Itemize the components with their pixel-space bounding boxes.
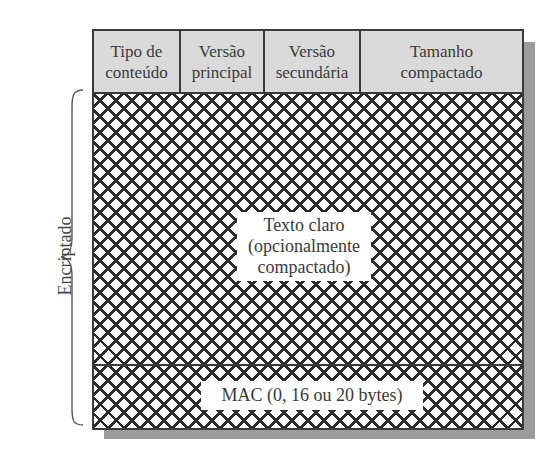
- mac-region: MAC (0, 16 ou 20 bytes): [94, 366, 522, 428]
- field-major-version: Versãoprincipal: [181, 31, 265, 92]
- field-label-line1: Tamanho: [410, 42, 473, 61]
- plaintext-line2: (opcionalmente: [248, 236, 360, 256]
- encrypted-label: Encriptado: [53, 201, 77, 311]
- field-minor-version: Versãosecundária: [265, 31, 361, 92]
- mac-label: MAC (0, 16 ou 20 bytes): [201, 381, 423, 410]
- field-label-line1: Versão: [199, 42, 245, 61]
- field-label-line2: principal: [192, 63, 252, 82]
- plaintext-label: Texto claro (opcionalmente compactado): [237, 212, 371, 281]
- plaintext-region: Texto claro (opcionalmente compactado): [94, 94, 522, 364]
- field-content-type: Tipo deconteúdo: [94, 31, 181, 92]
- plaintext-line3: compactado): [258, 257, 351, 277]
- header-row: Tipo deconteúdo Versãoprincipal Versãose…: [94, 31, 522, 94]
- field-label-line1: Tipo de: [111, 42, 163, 61]
- field-label-line2: compactado: [400, 63, 482, 82]
- field-compressed-length: Tamanhocompactado: [361, 31, 522, 92]
- record-format-box: Tipo deconteúdo Versãoprincipal Versãose…: [92, 29, 524, 430]
- field-label-line2: secundária: [276, 63, 349, 82]
- plaintext-line1: Texto claro: [263, 215, 344, 235]
- field-label-line1: Versão: [289, 42, 335, 61]
- field-label-line2: conteúdo: [105, 63, 167, 82]
